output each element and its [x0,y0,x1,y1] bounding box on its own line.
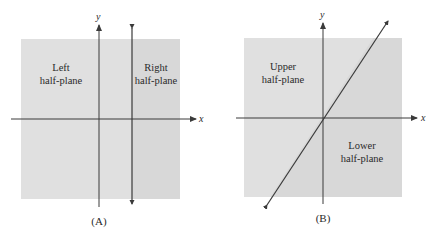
right-region-label-line2: half-plane [135,75,178,86]
y-axis-label: y [319,9,325,20]
panel-a: x y Left half-plane Right half-plane (A) [11,11,204,228]
caption-b: (B) [316,212,331,225]
y-axis-label: y [95,11,101,22]
left-region-label-line2: half-plane [40,75,83,86]
right-region-label-line1: Right [144,62,167,73]
caption-a: (A) [91,215,107,228]
panel-b: x y Upper half-plane Lower half-plane (B… [236,9,426,225]
lower-region-label-line1: Lower [348,140,376,151]
x-axis-label: x [198,113,204,124]
left-region-label-line1: Left [52,62,70,73]
upper-region-label-line1: Upper [270,61,297,72]
half-planes-figure: x y Left half-plane Right half-plane (A)… [0,0,435,236]
x-axis-label: x [420,112,426,123]
upper-region-label-line2: half-plane [262,74,305,85]
lower-region-label-line2: half-plane [341,153,384,164]
